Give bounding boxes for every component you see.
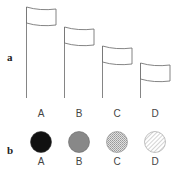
- flag-b: [65, 27, 95, 98]
- circle-label-a: A: [38, 156, 45, 167]
- flag-c: [103, 46, 133, 98]
- flag-label-b: B: [76, 108, 83, 119]
- diagram-canvas: a b A B C D A B C D: [0, 0, 181, 176]
- circle-a: [31, 132, 52, 153]
- circle-c: [107, 132, 128, 153]
- circle-b: [69, 132, 90, 153]
- circle-label-b: B: [76, 156, 83, 167]
- flag-d: [141, 63, 171, 98]
- circle-label-c: C: [113, 156, 120, 167]
- circle-label-d: D: [151, 156, 158, 167]
- flag-label-c: C: [113, 108, 120, 119]
- panel-label-a: a: [7, 51, 13, 63]
- flag-label-a: A: [38, 108, 45, 119]
- panel-label-b: b: [7, 144, 13, 156]
- circle-d: [145, 132, 166, 153]
- flag-a: [27, 7, 57, 98]
- flag-label-d: D: [151, 108, 158, 119]
